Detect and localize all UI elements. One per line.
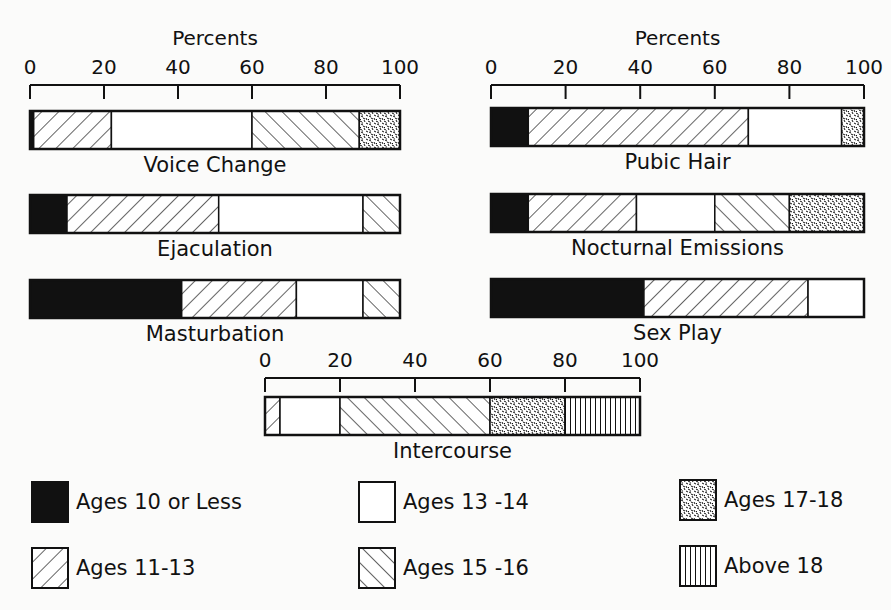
x-tick-label: 40: [627, 57, 652, 77]
x-tick-label: 20: [553, 57, 578, 77]
legend-swatch: [680, 480, 716, 520]
bar-segment: [265, 397, 280, 435]
bar-segment: [111, 111, 252, 149]
legend-swatch: [359, 482, 395, 522]
bar-segment: [565, 397, 640, 435]
x-tick-label: 60: [239, 57, 264, 77]
x-tick-label: 80: [552, 350, 577, 370]
axis-panel-1: [491, 85, 864, 99]
bar-pubic-hair: [491, 108, 864, 146]
legend-label: Ages 13 -14: [403, 492, 529, 513]
x-tick-label: 60: [477, 350, 502, 370]
x-tick-label: 0: [259, 350, 272, 370]
legend-label: Ages 11-13: [76, 558, 195, 579]
bar-segment: [842, 108, 864, 146]
axis-panel-0: [30, 85, 400, 99]
x-tick-label: 40: [165, 57, 190, 77]
legend-swatch: [680, 546, 716, 586]
x-tick-label: 40: [402, 350, 427, 370]
x-tick-label: 100: [621, 350, 659, 370]
bar-label: Voice Change: [144, 155, 287, 176]
bar-segment: [528, 108, 748, 146]
legend-swatch: [359, 548, 395, 588]
bar-label: Masturbation: [146, 324, 285, 345]
bar-segment: [644, 279, 808, 317]
bar-label: Nocturnal Emissions: [571, 238, 784, 259]
bar-segment: [808, 279, 864, 317]
x-tick-label: 60: [702, 57, 727, 77]
bar-ejaculation: [30, 195, 400, 233]
bar-nocturnal-emissions: [491, 194, 864, 232]
bar-masturbation: [30, 280, 400, 318]
bar-segment: [219, 195, 363, 233]
bar-label: Intercourse: [393, 441, 512, 462]
axis-title: Percents: [635, 28, 721, 48]
bar-label: Pubic Hair: [624, 152, 730, 173]
legend-label: Ages 17-18: [724, 490, 843, 511]
legend-label: Ages 10 or Less: [76, 492, 242, 513]
bar-segment: [363, 280, 400, 318]
legend-swatch: [32, 548, 68, 588]
bar-segment: [491, 194, 528, 232]
chart-canvas: [0, 0, 891, 610]
bar-segment: [182, 280, 297, 318]
bar-label: Sex Play: [633, 323, 722, 344]
bar-segment: [296, 280, 363, 318]
bar-segment: [789, 194, 864, 232]
bar-segment: [67, 195, 219, 233]
bar-segment: [30, 195, 67, 233]
bar-label: Ejaculation: [157, 239, 273, 260]
bar-segment: [34, 111, 112, 149]
x-tick-label: 0: [24, 57, 37, 77]
bar-segment: [491, 108, 528, 146]
bar-segment: [359, 111, 400, 149]
bar-segment: [490, 397, 565, 435]
x-tick-label: 20: [327, 350, 352, 370]
bar-voice-change: [30, 111, 400, 149]
x-tick-label: 100: [381, 57, 419, 77]
x-tick-label: 80: [777, 57, 802, 77]
axis-panel-2: [265, 378, 640, 392]
bar-segment: [340, 397, 490, 435]
bar-sex-play: [491, 279, 864, 317]
x-tick-label: 20: [91, 57, 116, 77]
bar-segment: [252, 111, 359, 149]
bar-segment: [528, 194, 636, 232]
bar-segment: [30, 280, 182, 318]
bar-segment: [491, 279, 644, 317]
legend-label: Ages 15 -16: [403, 558, 529, 579]
bar-segment: [748, 108, 841, 146]
x-tick-label: 100: [845, 57, 883, 77]
bar-segment: [280, 397, 340, 435]
axis-title: Percents: [172, 28, 258, 48]
bar-segment: [363, 195, 400, 233]
legend-label: Above 18: [724, 556, 823, 577]
bar-segment: [715, 194, 790, 232]
x-tick-label: 80: [313, 57, 338, 77]
x-tick-label: 0: [485, 57, 498, 77]
legend-swatch: [32, 482, 68, 522]
bar-intercourse: [265, 397, 640, 435]
bar-segment: [636, 194, 714, 232]
